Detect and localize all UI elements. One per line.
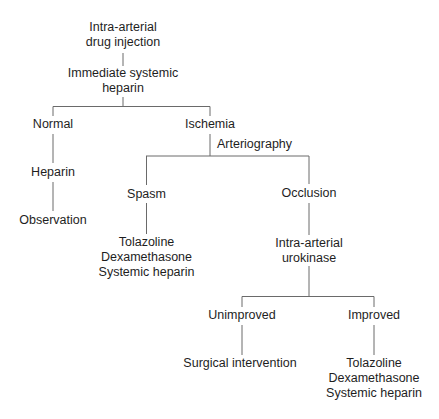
node-spasm: Spasm xyxy=(127,187,166,202)
improved-treatment-line-2: Dexamethasone xyxy=(326,371,422,386)
node-urokinase-line-2: urokinase xyxy=(275,251,342,266)
node-ischemia: Ischemia xyxy=(185,117,235,132)
node-normal-label: Normal xyxy=(33,117,73,132)
node-improved-treatment: Tolazoline Dexamethasone Systemic hepari… xyxy=(326,356,422,401)
node-surgical-intervention: Surgical intervention xyxy=(183,356,296,371)
improved-treatment-line-3: Systemic heparin xyxy=(326,386,422,401)
node-improved: Improved xyxy=(348,308,400,323)
spasm-treatment-line-1: Tolazoline xyxy=(99,235,195,250)
node-observation-label: Observation xyxy=(19,213,86,228)
node-unimproved-label: Unimproved xyxy=(208,308,275,323)
node-spasm-label: Spasm xyxy=(127,187,166,202)
node-heparin-label: Heparin xyxy=(31,165,75,180)
node-root-line-2: drug injection xyxy=(86,35,160,50)
node-immediate-heparin: Immediate systemic heparin xyxy=(68,66,178,96)
node-spasm-treatment: Tolazoline Dexamethasone Systemic hepari… xyxy=(99,235,195,280)
node-improved-label: Improved xyxy=(348,308,400,323)
node-urokinase-line-1: Intra-arterial xyxy=(275,236,342,251)
node-root: Intra-arterial drug injection xyxy=(86,20,160,50)
node-ischemia-label: Ischemia xyxy=(185,117,235,132)
spasm-treatment-line-2: Dexamethasone xyxy=(99,250,195,265)
node-urokinase: Intra-arterial urokinase xyxy=(275,236,342,266)
node-unimproved: Unimproved xyxy=(208,308,275,323)
node-immediate-heparin-line-2: heparin xyxy=(68,81,178,96)
node-occlusion: Occlusion xyxy=(282,186,337,201)
node-normal: Normal xyxy=(33,117,73,132)
arteriography-label: Arteriography xyxy=(217,137,292,151)
node-surgical-label: Surgical intervention xyxy=(183,356,296,371)
improved-treatment-line-1: Tolazoline xyxy=(326,356,422,371)
node-observation: Observation xyxy=(19,213,86,228)
spasm-treatment-line-3: Systemic heparin xyxy=(99,265,195,280)
flowchart-canvas: Intra-arterial drug injection Immediate … xyxy=(0,0,439,419)
node-root-line-1: Intra-arterial xyxy=(86,20,160,35)
node-occlusion-label: Occlusion xyxy=(282,186,337,201)
node-heparin: Heparin xyxy=(31,165,75,180)
edge-label-arteriography: Arteriography xyxy=(217,137,292,152)
node-immediate-heparin-line-1: Immediate systemic xyxy=(68,66,178,81)
